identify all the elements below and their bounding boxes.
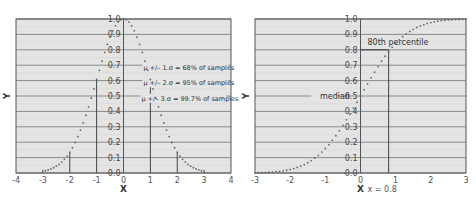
y-tick-label: 0.6 xyxy=(108,77,121,86)
data-point xyxy=(190,165,192,167)
data-point xyxy=(391,46,393,48)
data-point xyxy=(133,30,135,32)
data-point xyxy=(374,71,376,73)
data-point xyxy=(310,160,312,162)
data-point xyxy=(289,169,291,171)
data-point xyxy=(55,165,57,167)
data-point xyxy=(98,69,100,71)
data-point xyxy=(141,52,143,54)
x-tick-label: -1 xyxy=(321,176,329,185)
y-tick-label: 0.5 xyxy=(108,92,121,101)
data-point xyxy=(131,25,133,27)
data-point xyxy=(101,60,103,62)
x-tick-label: 1 xyxy=(148,176,153,185)
y-tick-label: 0.1 xyxy=(345,154,358,163)
y-tick-label: 0.9 xyxy=(345,30,358,39)
data-point xyxy=(300,165,302,167)
data-point xyxy=(201,170,203,172)
sigma-annotation: μ +/– 2.σ = 95% of samples xyxy=(143,79,235,87)
data-point xyxy=(109,36,111,38)
data-point xyxy=(412,28,414,30)
percentile-label: 80th percentile xyxy=(368,38,429,47)
data-point xyxy=(314,157,316,159)
data-point xyxy=(198,169,200,171)
y-tick-label: 0.7 xyxy=(345,61,358,70)
data-point xyxy=(192,167,194,169)
data-point xyxy=(136,36,138,38)
data-point xyxy=(144,60,146,62)
data-point xyxy=(279,170,281,172)
data-point xyxy=(384,55,386,57)
data-point xyxy=(265,172,267,174)
data-point xyxy=(90,97,92,99)
data-point xyxy=(331,139,333,141)
data-point xyxy=(117,21,119,23)
x-tick-label: 2 xyxy=(175,176,180,185)
data-point xyxy=(88,106,90,108)
data-point xyxy=(465,18,467,20)
data-point xyxy=(402,36,404,38)
y-axis-label: Y xyxy=(2,92,12,100)
data-point xyxy=(349,113,351,115)
data-point xyxy=(293,168,295,170)
data-point xyxy=(275,171,277,173)
data-point xyxy=(335,135,337,137)
data-point xyxy=(184,161,186,163)
y-tick-label: 0.6 xyxy=(345,77,358,86)
data-point xyxy=(58,163,60,165)
data-point xyxy=(430,22,432,24)
data-point xyxy=(346,119,348,121)
data-point xyxy=(296,167,298,169)
data-point xyxy=(409,31,411,33)
x-tick-label: -2 xyxy=(66,176,74,185)
data-point xyxy=(317,154,319,156)
data-point xyxy=(93,88,95,90)
left-chart-pdf: 0.00.10.20.30.40.50.60.70.80.91.0-4-3-2-… xyxy=(2,15,239,194)
data-point xyxy=(303,164,305,166)
data-point xyxy=(155,97,157,99)
x-tick-label: -2 xyxy=(286,176,294,185)
data-point xyxy=(139,44,141,46)
data-point xyxy=(356,101,358,103)
data-point xyxy=(158,106,160,108)
data-point xyxy=(272,171,274,173)
data-point xyxy=(50,168,52,170)
data-point xyxy=(171,142,173,144)
data-point xyxy=(61,161,63,163)
y-tick-label: 0.0 xyxy=(108,169,121,178)
data-point xyxy=(104,52,106,54)
y-tick-label: 0.4 xyxy=(108,107,121,116)
data-point xyxy=(388,51,390,53)
data-point xyxy=(377,66,379,68)
data-point xyxy=(174,147,176,149)
data-point xyxy=(342,125,344,127)
data-point xyxy=(416,27,418,29)
data-point xyxy=(72,147,74,149)
x-tick-label: -4 xyxy=(12,176,20,185)
median-label: median xyxy=(320,92,350,101)
y-tick-label: 0.2 xyxy=(345,138,358,147)
data-point xyxy=(423,24,425,26)
data-point xyxy=(321,151,323,153)
data-point xyxy=(455,19,457,21)
y-tick-label: 0.4 xyxy=(345,107,358,116)
data-point xyxy=(258,172,260,174)
data-point xyxy=(163,122,165,124)
data-point xyxy=(125,19,127,21)
x-value-label: x = 0.8 xyxy=(368,185,397,194)
data-point xyxy=(147,69,149,71)
data-point xyxy=(433,21,435,23)
data-point xyxy=(448,19,450,21)
y-tick-label: 0.8 xyxy=(345,46,358,55)
y-tick-label: 0.8 xyxy=(108,46,121,55)
data-point xyxy=(66,155,68,157)
y-tick-label: 0.3 xyxy=(108,123,121,132)
y-tick-label: 0.9 xyxy=(108,30,121,39)
data-point xyxy=(179,155,181,157)
data-point xyxy=(149,79,151,81)
data-point xyxy=(367,83,369,85)
x-axis-label: X xyxy=(120,184,127,194)
data-point xyxy=(419,25,421,27)
data-point xyxy=(282,170,284,172)
data-point xyxy=(328,144,330,146)
